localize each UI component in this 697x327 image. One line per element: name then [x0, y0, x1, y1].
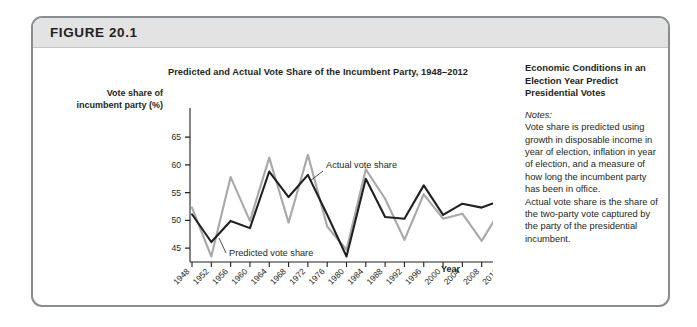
y-tick-label: 55	[171, 188, 181, 198]
chart-block: Predicted and Actual Vote Share of the I…	[33, 48, 493, 307]
notes-heading: Economic Conditions in an Election Year …	[525, 62, 660, 100]
notes-paragraph-1: Vote share is predicted using growth in …	[525, 121, 660, 195]
y-tick-label: 60	[171, 160, 181, 170]
x-tick-label: 1992	[384, 266, 404, 286]
x-tick-label: 1984	[345, 266, 365, 286]
x-tick-label: 1964	[248, 266, 268, 286]
x-tick-label: 1976	[306, 266, 326, 286]
notes-block: Economic Conditions in an Election Year …	[525, 62, 660, 245]
notes-label: Notes:	[525, 109, 660, 121]
x-tick-label: 2012	[480, 266, 493, 286]
x-tick-label: 1988	[364, 266, 384, 286]
series-annotation-label: Predicted vote share	[229, 248, 313, 258]
x-tick-label: 1972	[287, 266, 307, 286]
x-axis-ticks: 1948195219561960196419681972197619801984…	[171, 262, 493, 287]
x-tick-label: 1952	[190, 266, 210, 286]
y-tick-label: 65	[171, 132, 181, 142]
y-tick-label: 50	[171, 215, 181, 225]
x-tick-label: 1968	[268, 266, 288, 286]
x-tick-label: 1960	[229, 266, 249, 286]
series-annotation-label: Actual vote share	[326, 160, 397, 170]
x-tick-label: 1956	[210, 266, 230, 286]
series-line	[192, 155, 493, 257]
x-tick-label: 1980	[326, 266, 346, 286]
x-tick-label: 1996	[403, 266, 423, 286]
x-tick-label: 2008	[461, 266, 481, 286]
notes-paragraph-2: Actual vote share is the share of the tw…	[525, 196, 660, 246]
series-lines	[192, 155, 493, 257]
figure-frame: FIGURE 20.1 Predicted and Actual Vote Sh…	[31, 16, 670, 307]
x-tick-label: 1948	[171, 266, 191, 286]
x-tick-label: 2004	[442, 266, 462, 286]
vote-share-line-chart: 6560555045 19481952195619601964196819721…	[33, 48, 493, 307]
x-tick-label: 2000	[422, 266, 442, 286]
y-axis-ticks: 6560555045	[171, 132, 190, 253]
annotation-leader-line	[219, 238, 226, 253]
figure-number-label: FIGURE 20.1	[50, 25, 138, 40]
y-tick-label: 45	[171, 243, 181, 253]
